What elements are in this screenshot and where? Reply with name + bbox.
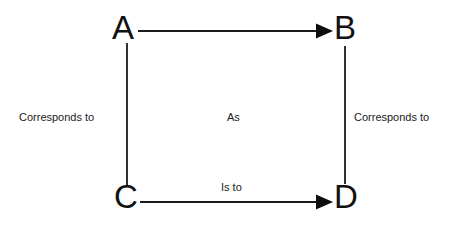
edge-label-center-as: As <box>227 111 240 124</box>
edge-c-to-d-arrowhead <box>316 195 333 210</box>
node-b: B <box>334 11 356 44</box>
node-c: C <box>114 180 138 213</box>
edge-a-to-b-arrowhead <box>316 24 333 39</box>
edge-label-left-corresponds-to: Corresponds to <box>19 111 94 124</box>
edge-a-to-b <box>138 24 333 39</box>
edge-label-right-corresponds-to: Corresponds to <box>354 111 429 124</box>
node-d: D <box>334 180 358 213</box>
node-a: A <box>112 11 134 44</box>
edge-label-bottom-is-to: Is to <box>221 181 242 194</box>
edge-c-to-d <box>140 195 333 210</box>
diagram-canvas: A B C D Corresponds to As Corresponds to… <box>0 0 473 226</box>
